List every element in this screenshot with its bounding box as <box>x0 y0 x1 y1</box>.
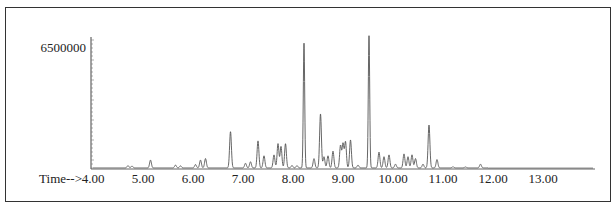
chromatogram-chart: 6500000 Time--> 4.005.006.007.008.009.00… <box>0 0 616 211</box>
y-axis-max-label: 6500000 <box>41 40 87 55</box>
x-axis-tick-labels: 4.005.006.007.008.009.0010.0011.0012.001… <box>82 171 558 186</box>
x-tick-label: 12.00 <box>478 171 507 186</box>
x-tick-label: 7.00 <box>232 171 255 186</box>
chromatogram-trace <box>93 36 593 168</box>
x-axis-title: Time--> <box>39 171 82 186</box>
x-tick-label: 11.00 <box>429 171 458 186</box>
x-tick-label: 13.00 <box>528 171 557 186</box>
x-tick-label: 5.00 <box>132 171 155 186</box>
x-tick-label: 6.00 <box>182 171 205 186</box>
x-tick-label: 4.00 <box>82 171 105 186</box>
x-tick-label: 10.00 <box>378 171 407 186</box>
x-tick-label: 8.00 <box>282 171 305 186</box>
x-tick-label: 9.00 <box>332 171 355 186</box>
